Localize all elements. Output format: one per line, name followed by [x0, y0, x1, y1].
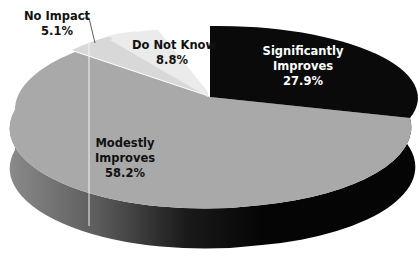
label-significantly-line2: Improves [243, 59, 363, 74]
label-no-impact: No Impact 5.1% [22, 9, 92, 39]
label-modestly-line1: Modestly [85, 136, 165, 151]
label-no-impact-pct: 5.1% [22, 24, 92, 39]
label-modestly-line2: Improves [85, 151, 165, 166]
label-do-not-know-pct: 8.8% [132, 53, 212, 68]
label-do-not-know: Do Not Know 8.8% [132, 38, 212, 68]
label-modestly-pct: 58.2% [85, 166, 165, 181]
label-significantly-line1: Significantly [243, 44, 363, 59]
label-no-impact-line1: No Impact [22, 9, 92, 24]
label-do-not-know-line1: Do Not Know [132, 38, 212, 53]
label-significantly-pct: 27.9% [243, 74, 363, 89]
label-significantly-improves: Significantly Improves 27.9% [243, 44, 363, 89]
label-modestly-improves: Modestly Improves 58.2% [85, 136, 165, 181]
